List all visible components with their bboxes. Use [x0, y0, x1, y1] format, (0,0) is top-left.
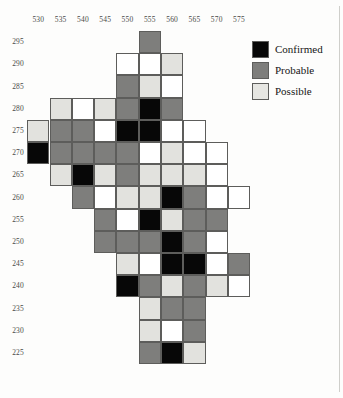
legend-item-confirmed: Confirmed: [252, 39, 338, 59]
heatmap-cell: [72, 164, 94, 186]
heatmap-cell: [50, 164, 72, 186]
heatmap-cell: [228, 275, 250, 297]
heatmap-cell: [183, 275, 205, 297]
heatmap-cell: [94, 186, 116, 208]
heatmap-cell: [161, 75, 183, 97]
heatmap-cell: [161, 342, 183, 364]
heatmap-cell: [116, 209, 138, 231]
heatmap-cell: [139, 53, 161, 75]
heatmap-cell: [116, 142, 138, 164]
heatmap-figure: 530535540545550555560565570575 295290285…: [0, 0, 343, 398]
heatmap-cell: [206, 186, 228, 208]
legend-item-possible: Possible: [252, 81, 338, 101]
heatmap-cell: [161, 297, 183, 319]
heatmap-cell: [161, 186, 183, 208]
legend-label-probable: Probable: [275, 64, 314, 76]
heatmap-cell: [183, 186, 205, 208]
heatmap-cell: [139, 275, 161, 297]
heatmap-cell: [139, 231, 161, 253]
heatmap-cell: [116, 53, 138, 75]
heatmap-cell: [183, 164, 205, 186]
legend-swatch-confirmed: [252, 41, 269, 58]
legend-swatch-probable: [252, 62, 269, 79]
legend-label-confirmed: Confirmed: [275, 43, 323, 55]
heatmap-cell: [139, 297, 161, 319]
heatmap-cell: [27, 120, 49, 142]
heatmap-cell: [183, 297, 205, 319]
heatmap-cell: [183, 342, 205, 364]
heatmap-cell: [72, 98, 94, 120]
heatmap-cell: [72, 142, 94, 164]
heatmap-cell: [139, 142, 161, 164]
heatmap-cell: [161, 275, 183, 297]
heatmap-cell: [206, 231, 228, 253]
heatmap-cell: [161, 164, 183, 186]
heatmap-cell: [228, 253, 250, 275]
heatmap-cell: [139, 75, 161, 97]
heatmap-cell: [94, 209, 116, 231]
heatmap-cell: [94, 142, 116, 164]
heatmap-cell: [72, 186, 94, 208]
legend-label-possible: Possible: [275, 85, 312, 97]
heatmap-cell: [50, 142, 72, 164]
heatmap-cell: [161, 120, 183, 142]
heatmap-cell: [161, 209, 183, 231]
heatmap-cell: [116, 253, 138, 275]
legend-swatch-possible: [252, 83, 269, 100]
heatmap-cell: [116, 120, 138, 142]
heatmap-cell: [94, 98, 116, 120]
heatmap-cell: [183, 120, 205, 142]
heatmap-cell: [94, 231, 116, 253]
heatmap-cell: [139, 98, 161, 120]
heatmap-cell: [206, 209, 228, 231]
heatmap-cell: [139, 253, 161, 275]
heatmap-cell: [161, 53, 183, 75]
heatmap-cell: [183, 320, 205, 342]
heatmap-cell: [206, 142, 228, 164]
heatmap-cell: [139, 31, 161, 53]
heatmap-cell: [72, 120, 94, 142]
heatmap-cell: [183, 142, 205, 164]
heatmap-cell: [161, 320, 183, 342]
heatmap-cell: [206, 275, 228, 297]
heatmap-cell: [116, 231, 138, 253]
heatmap-cell: [116, 275, 138, 297]
heatmap-cell: [161, 231, 183, 253]
legend-item-probable: Probable: [252, 60, 338, 80]
heatmap-cell: [206, 253, 228, 275]
heatmap-cell: [206, 164, 228, 186]
heatmap-cell: [116, 98, 138, 120]
heatmap-cell: [139, 342, 161, 364]
heatmap-cell: [139, 209, 161, 231]
heatmap-cell: [161, 253, 183, 275]
heatmap-cell: [50, 98, 72, 120]
heatmap-cell: [139, 320, 161, 342]
heatmap-cell: [161, 98, 183, 120]
heatmap-cell: [228, 186, 250, 208]
heatmap-cell: [183, 231, 205, 253]
heatmap-cell: [94, 120, 116, 142]
heatmap-cell: [139, 186, 161, 208]
heatmap-cell: [161, 142, 183, 164]
heatmap-cell: [27, 142, 49, 164]
legend: Confirmed Probable Possible: [252, 39, 338, 102]
heatmap-cell: [116, 164, 138, 186]
heatmap-cell: [183, 209, 205, 231]
heatmap-cell: [94, 164, 116, 186]
heatmap-cell: [116, 75, 138, 97]
heatmap-cell: [116, 186, 138, 208]
heatmap-cell: [139, 164, 161, 186]
heatmap-cell: [50, 120, 72, 142]
heatmap-cell: [139, 120, 161, 142]
heatmap-cell: [183, 253, 205, 275]
